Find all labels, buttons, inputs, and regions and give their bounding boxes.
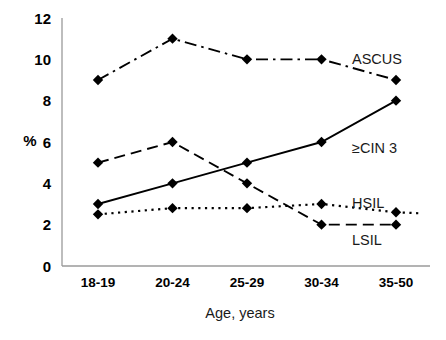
- x-tick-labels: 18-1920-2425-2930-3435-50: [81, 275, 414, 290]
- line-chart: 024681012 18-1920-2425-2930-3435-50 ASCU…: [0, 0, 446, 340]
- data-point-marker: [93, 209, 103, 219]
- data-point-marker: [242, 178, 252, 188]
- data-point-marker: [167, 178, 177, 188]
- chart-container: 024681012 18-1920-2425-2930-3435-50 ASCU…: [0, 0, 446, 340]
- series-label-lsil: LSIL: [352, 232, 382, 248]
- data-point-marker: [316, 199, 326, 209]
- data-point-marker: [242, 157, 252, 167]
- data-point-marker: [167, 137, 177, 147]
- data-point-marker: [242, 54, 252, 64]
- y-tick-label: 6: [43, 134, 51, 151]
- data-point-marker: [391, 95, 401, 105]
- data-point-marker: [242, 203, 252, 213]
- y-tick-label: 0: [43, 258, 51, 275]
- y-tick-label: 10: [34, 51, 51, 68]
- y-tick-label: 12: [34, 10, 51, 27]
- y-tick-labels: 024681012: [34, 10, 51, 275]
- data-point-marker: [391, 75, 401, 85]
- series-label-cin3: ≥CIN 3: [352, 140, 397, 156]
- x-tick-label: 35-50: [379, 275, 414, 290]
- y-tick-label: 4: [43, 175, 52, 192]
- series-label-hsil: HSIL: [352, 195, 384, 211]
- x-axis-title: Age, years: [205, 305, 274, 321]
- x-tick-label: 18-19: [81, 275, 116, 290]
- data-point-marker: [316, 137, 326, 147]
- data-point-marker: [93, 157, 103, 167]
- y-tick-label: 8: [43, 92, 51, 109]
- data-point-marker: [316, 219, 326, 229]
- data-point-marker: [93, 75, 103, 85]
- x-tick-label: 20-24: [155, 275, 190, 290]
- data-point-marker: [391, 207, 401, 217]
- series-label-ascus: ASCUS: [352, 51, 402, 67]
- data-point-marker: [391, 219, 401, 229]
- x-tick-label: 25-29: [230, 275, 265, 290]
- data-point-marker: [316, 54, 326, 64]
- data-point-marker: [167, 33, 177, 43]
- data-point-marker: [167, 203, 177, 213]
- y-tick-label: 2: [43, 216, 51, 233]
- y-axis-title: %: [23, 132, 36, 149]
- data-point-marker: [93, 199, 103, 209]
- x-tick-label: 30-34: [304, 275, 339, 290]
